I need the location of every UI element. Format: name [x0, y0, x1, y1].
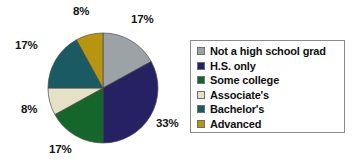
legend-item-label: Advanced — [210, 118, 261, 130]
legend-item-label: Not a high school grad — [210, 45, 326, 57]
slice-label-not-a-high-school-grad: 17% — [131, 14, 154, 26]
legend-item-advanced[interactable]: Advanced — [197, 117, 344, 132]
legend-color-swatch — [197, 120, 205, 128]
pie-slice-group — [48, 33, 158, 143]
legend-item-associates[interactable]: Associate's — [197, 88, 344, 103]
legend-item-some-college[interactable]: Some college — [197, 73, 344, 88]
legend-item-not-a-high-school-grad[interactable]: Not a high school grad — [197, 44, 344, 59]
legend-item-bachelors[interactable]: Bachelor's — [197, 102, 344, 117]
legend-item-label: H.S. only — [210, 60, 256, 72]
legend-color-swatch — [197, 105, 205, 113]
legend-item-list: Not a high school gradH.S. onlySome coll… — [197, 44, 344, 131]
slice-label-advanced: 8% — [73, 6, 89, 18]
slice-label-some-college: 17% — [49, 144, 72, 156]
legend-item-hs-only[interactable]: H.S. only — [197, 59, 344, 74]
chart-legend: Not a high school gradH.S. onlySome coll… — [190, 40, 345, 133]
pie-chart-figure: 17%33%17%8%17%8% Not a high school gradH… — [0, 0, 360, 164]
legend-item-label: Associate's — [210, 89, 269, 101]
legend-color-swatch — [197, 91, 205, 99]
legend-item-label: Some college — [210, 74, 279, 86]
legend-item-label: Bachelor's — [210, 103, 264, 115]
slice-label-bachelors: 17% — [15, 40, 38, 52]
slice-label-associates: 8% — [21, 104, 37, 116]
legend-color-swatch — [197, 76, 205, 84]
slice-label-hs-only: 33% — [156, 118, 179, 130]
legend-color-swatch — [197, 62, 205, 70]
legend-color-swatch — [197, 47, 205, 55]
